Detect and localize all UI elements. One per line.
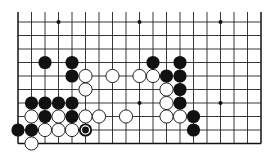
go-board[interactable] bbox=[0, 0, 273, 164]
black-stone[interactable] bbox=[173, 56, 186, 69]
white-stone[interactable] bbox=[25, 137, 38, 150]
white-stone[interactable] bbox=[92, 110, 105, 123]
black-stone[interactable] bbox=[38, 96, 51, 109]
black-stone[interactable] bbox=[146, 56, 159, 69]
black-stone[interactable] bbox=[65, 69, 78, 82]
black-stone[interactable] bbox=[160, 69, 173, 82]
black-stone[interactable] bbox=[173, 83, 186, 96]
white-stone[interactable] bbox=[106, 69, 119, 82]
star-point-icon bbox=[57, 20, 61, 24]
black-stone[interactable] bbox=[173, 96, 186, 109]
white-stone[interactable] bbox=[38, 123, 51, 136]
black-stone[interactable] bbox=[65, 110, 78, 123]
white-stone[interactable] bbox=[79, 83, 92, 96]
star-point-icon bbox=[138, 20, 142, 24]
white-stone[interactable] bbox=[160, 110, 173, 123]
white-stone[interactable] bbox=[160, 96, 173, 109]
white-stone[interactable] bbox=[79, 110, 92, 123]
black-stone[interactable] bbox=[25, 123, 38, 136]
white-stone[interactable] bbox=[119, 110, 132, 123]
black-stone[interactable] bbox=[25, 96, 38, 109]
black-stone[interactable] bbox=[65, 96, 78, 109]
white-stone[interactable] bbox=[52, 123, 65, 136]
white-stone[interactable] bbox=[25, 110, 38, 123]
white-stone[interactable] bbox=[173, 110, 186, 123]
white-stone[interactable] bbox=[133, 69, 146, 82]
black-stone[interactable] bbox=[11, 123, 24, 136]
black-stone[interactable] bbox=[187, 110, 200, 123]
white-stone[interactable] bbox=[160, 83, 173, 96]
black-stone[interactable] bbox=[65, 56, 78, 69]
white-stone[interactable] bbox=[65, 123, 78, 136]
black-stone[interactable] bbox=[187, 123, 200, 136]
black-stone[interactable] bbox=[52, 96, 65, 109]
black-stone[interactable] bbox=[173, 69, 186, 82]
black-stone[interactable] bbox=[38, 110, 51, 123]
white-stone[interactable] bbox=[79, 69, 92, 82]
star-point-icon bbox=[219, 20, 223, 24]
star-point-icon bbox=[138, 101, 142, 105]
white-stone[interactable] bbox=[52, 110, 65, 123]
star-point-icon bbox=[219, 101, 223, 105]
white-stone[interactable] bbox=[146, 69, 159, 82]
black-stone[interactable] bbox=[38, 56, 51, 69]
